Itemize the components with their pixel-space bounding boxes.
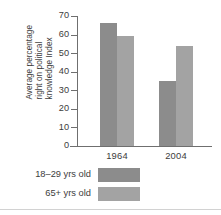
plot-area: [78, 16, 212, 146]
y-axis-tick: [71, 72, 77, 73]
bar-chart-figure: Average percentage right on political kn…: [0, 0, 221, 215]
y-axis-tick: [71, 146, 77, 147]
y-axis-tick: [71, 53, 77, 54]
x-axis-tick-label: 1964: [92, 150, 142, 161]
legend-label-senior: 65+ yrs old: [45, 188, 91, 199]
legend-label-young: 18–29 yrs old: [35, 169, 91, 180]
y-axis-tick: [71, 109, 77, 110]
legend-item-young: 18–29 yrs old: [6, 166, 140, 183]
y-axis-tick: [71, 35, 77, 36]
bar: [176, 46, 193, 146]
y-axis-tick: [71, 127, 77, 128]
x-axis-line: [70, 146, 212, 147]
y-axis-tick: [71, 90, 77, 91]
y-axis-tick-label: 20: [45, 104, 69, 113]
y-axis-tick: [71, 16, 77, 17]
bar: [100, 23, 117, 146]
y-axis-tick-label: 0: [45, 141, 69, 150]
y-axis-tick-label: 50: [45, 49, 69, 58]
y-axis-tick-label: 70: [45, 11, 69, 20]
legend-swatch-senior: [98, 187, 140, 201]
y-axis-tick-label: 10: [45, 123, 69, 132]
y-axis-label-line-1: Average percentage: [24, 25, 34, 100]
y-axis-tick-label: 40: [45, 67, 69, 76]
bottom-divider: [0, 209, 221, 210]
y-axis-tick-label: 60: [45, 30, 69, 39]
bar: [159, 81, 176, 146]
x-axis-tick-label: 2004: [151, 150, 201, 161]
y-axis-tick-label: 30: [45, 86, 69, 95]
bar: [117, 36, 134, 146]
legend-item-senior: 65+ yrs old: [6, 185, 140, 202]
chart-legend: 18–29 yrs old 65+ yrs old: [6, 166, 140, 204]
legend-swatch-young: [98, 168, 140, 182]
y-axis-label-line-2: right on political: [34, 42, 44, 100]
